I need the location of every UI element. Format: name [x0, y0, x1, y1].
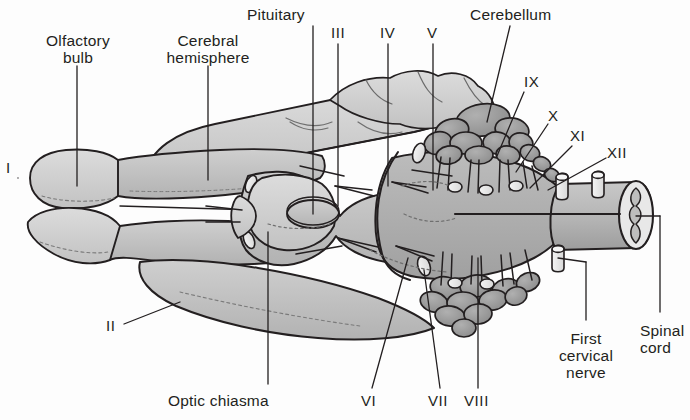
label-nerve-xi: XI [570, 128, 585, 144]
label-cerebral-hemisphere: Cerebral hemisphere [128, 32, 288, 66]
label-nerve-viii: VIII [464, 393, 489, 409]
label-optic-chiasma: Optic chiasma [168, 392, 269, 409]
label-first-cervical-nerve: First cervical nerve [541, 330, 631, 381]
brain-diagram-figure: Olfactory bulb Cerebral hemisphere Pitui… [0, 0, 690, 420]
label-nerve-v: V [427, 25, 438, 41]
label-olfactory-bulb: Olfactory bulb [8, 32, 148, 66]
label-nerve-vii: VII [428, 393, 448, 409]
label-nerve-iv: IV [380, 25, 395, 41]
label-nerve-ix: IX [524, 74, 539, 90]
label-cerebellum: Cerebellum [470, 6, 551, 23]
label-nerve-x: X [548, 108, 559, 124]
label-nerve-i: I [6, 160, 11, 176]
label-nerve-xii: XII [607, 145, 627, 161]
ventral-temporal-lobe [139, 260, 434, 340]
label-nerve-iii: III [331, 25, 345, 41]
label-nerve-ii: II [106, 318, 116, 334]
label-pituitary: Pituitary [247, 6, 305, 23]
leader-ii [124, 302, 180, 324]
cerebellum-lower [418, 269, 543, 337]
label-spinal-cord: Spinal cord [640, 322, 684, 356]
label-nerve-vi: VI [361, 393, 376, 409]
